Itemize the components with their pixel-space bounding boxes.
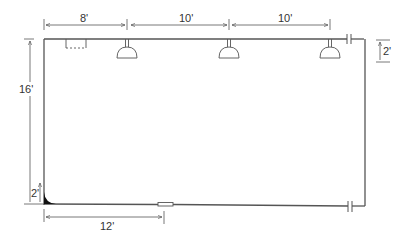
dim-label-2ft-right: 2' [383, 45, 391, 57]
pendant-light-1 [117, 39, 137, 58]
dim-label-8ft: 8' [80, 12, 88, 24]
room-outline [44, 39, 365, 206]
left-dimension [24, 39, 44, 204]
corner-fillet [44, 192, 56, 204]
bottom-opening [158, 203, 173, 207]
dashed-box [66, 39, 86, 48]
pendant-light-2 [219, 39, 239, 58]
room-diagram: 8' 10' 10' 16' 2' 2' 12' [0, 0, 406, 237]
dim-label-2ft-left: 2' [31, 187, 39, 199]
dim-label-10ft-2: 10' [278, 12, 292, 24]
wall-break-bottom [348, 201, 352, 212]
pendant-light-3 [320, 39, 340, 58]
wall-break-top [347, 34, 351, 44]
dim-label-16ft: 16' [19, 83, 33, 95]
dim-label-12ft: 12' [100, 220, 114, 232]
dim-label-10ft-1: 10' [179, 12, 193, 24]
